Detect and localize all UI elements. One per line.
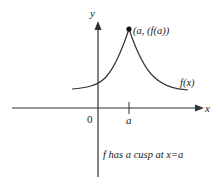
curve-label: f(x): [180, 77, 195, 89]
tick-a-label: a: [126, 114, 132, 126]
x-axis-arrow-icon: [195, 105, 204, 112]
cusp-diagram: y x 0 a (a, (f(a)) f(x) f has a cusp at …: [0, 0, 218, 186]
cusp-point: [126, 26, 131, 31]
cusp-point-label: (a, (f(a)): [133, 25, 170, 37]
origin-label: 0: [87, 113, 93, 125]
caption: f has a cusp at x=a: [103, 149, 183, 160]
y-axis-arrow-icon: [95, 21, 102, 30]
y-axis-label: y: [89, 7, 95, 19]
x-axis-label: x: [204, 102, 210, 114]
curve-left-branch: [72, 29, 129, 89]
x-axis: [12, 105, 204, 112]
y-axis: [95, 21, 102, 177]
